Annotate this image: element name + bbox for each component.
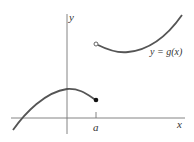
x-axis-label: x: [177, 119, 182, 130]
closed-endpoint: [94, 98, 99, 103]
y-axis-label: y: [69, 12, 74, 23]
tick-a-label: a: [93, 122, 99, 133]
left-curve: [13, 89, 96, 130]
function-label: y = g(x): [150, 47, 182, 57]
open-endpoint: [94, 42, 98, 46]
